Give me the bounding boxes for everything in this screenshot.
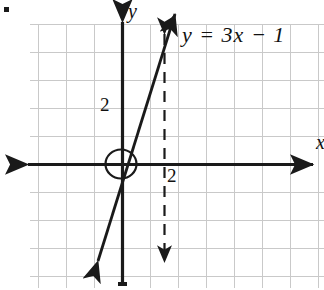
- y-axis-tick-label: 2: [100, 94, 110, 116]
- y-axis-label: y: [128, 0, 137, 23]
- y-axis-foot: [118, 282, 127, 286]
- x-axis-tick-label: 2: [167, 165, 177, 187]
- graph-figure: y x 2 2 y = 3x − 1: [0, 0, 324, 290]
- x-axis-label: x: [316, 131, 324, 154]
- equation-label: y = 3x − 1: [182, 22, 285, 48]
- grid-lines: [30, 24, 324, 288]
